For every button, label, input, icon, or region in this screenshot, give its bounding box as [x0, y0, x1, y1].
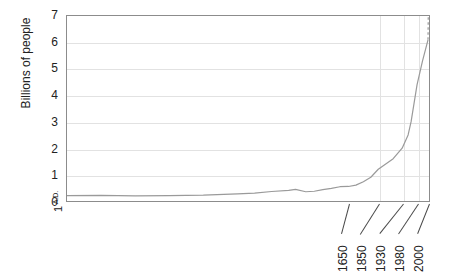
y-tick-label: 1: [38, 169, 58, 181]
origin-axis-label: 1 A.D.: [52, 191, 64, 212]
x-tick-label-1650: 1650: [336, 245, 350, 272]
x-tick-label-1930: 1930: [374, 245, 388, 272]
y-tick-label: 3: [38, 116, 58, 128]
y-tick-label: 5: [38, 62, 58, 74]
y-tick-label: 4: [38, 89, 58, 101]
origin-era: A.D.: [52, 191, 59, 206]
y-tick-label: 2: [38, 143, 58, 155]
x-tick-label-2000: 2000: [412, 245, 426, 272]
x-tick-label-1980: 1980: [393, 245, 407, 272]
population-growth-chart: Billions of people 76543210 165018501930…: [0, 0, 449, 280]
series-line-projection: [428, 16, 429, 40]
series-line-population: [67, 40, 428, 196]
origin-year: 1: [52, 206, 64, 212]
y-tick-label: 7: [38, 9, 58, 21]
y-tick-label: 6: [38, 36, 58, 48]
curve-layer: [67, 16, 429, 201]
x-tick-label-1850: 1850: [355, 245, 369, 272]
plot-area: [66, 15, 430, 202]
plot-inner: [67, 16, 429, 201]
